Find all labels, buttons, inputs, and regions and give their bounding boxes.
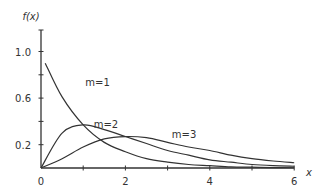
y-tick-label: 0.6	[15, 93, 31, 104]
chart-canvas: 0.20.61.00246f(x)x m=1m=2m=3	[0, 0, 328, 195]
chart: 0.20.61.00246f(x)x m=1m=2m=3	[0, 0, 328, 195]
y-tick-label: 0.2	[15, 140, 31, 151]
curves	[41, 63, 294, 168]
curve-m3	[41, 136, 294, 168]
x-tick-label: 0	[38, 176, 44, 187]
curve-m2	[41, 125, 294, 168]
curve-m1	[45, 63, 294, 168]
curve-label: m=2	[94, 119, 118, 130]
x-tick-label: 4	[207, 176, 213, 187]
x-tick-label: 6	[291, 176, 297, 187]
x-axis-label: x	[305, 167, 312, 178]
y-axis-label: f(x)	[22, 11, 39, 22]
y-tick-label: 1.0	[15, 47, 31, 58]
curve-label: m=1	[85, 77, 109, 88]
labels: m=1m=2m=3	[85, 77, 196, 140]
x-tick-label: 2	[122, 176, 128, 187]
curve-label: m=3	[172, 129, 196, 140]
